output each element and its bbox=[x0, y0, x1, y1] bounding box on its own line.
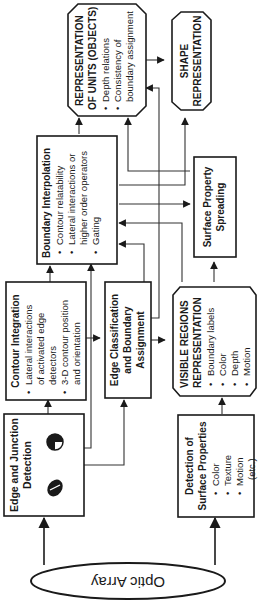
bullet-icon: • bbox=[54, 251, 65, 254]
spreading-title-2: Spreading bbox=[215, 183, 226, 232]
bullet-icon: • bbox=[229, 383, 240, 386]
bullet-icon: • bbox=[217, 383, 228, 386]
surface-bullet-3: Motion bbox=[234, 457, 245, 486]
units-title-1: REPRESENTATION bbox=[74, 15, 85, 106]
diagram-canvas: Optic Array Edge and Junction Detection … bbox=[0, 0, 269, 603]
visible-bullet-1: Boundary labels bbox=[205, 308, 216, 376]
junction-disk-icon bbox=[47, 434, 63, 450]
edge-classification-title-2: and Boundary bbox=[122, 306, 133, 374]
spreading-title-1: Surface Property bbox=[202, 166, 213, 247]
edge-junction-node: Edge and Junction Detection bbox=[4, 414, 84, 516]
boundary-bullet-2b: higher order operators bbox=[78, 151, 89, 245]
visible-title-2: REPRESENTATION bbox=[192, 297, 203, 388]
edge-junction-title-1: Edge and Junction bbox=[8, 418, 20, 512]
bullet-icon: • bbox=[23, 391, 34, 394]
surface-detection-title-1: Detection of bbox=[184, 436, 195, 494]
bullet-icon: • bbox=[100, 107, 111, 110]
units-bullet-1: Depth relations bbox=[100, 38, 111, 102]
arrow-edge-to-classification bbox=[84, 400, 124, 465]
edge-classification-node: Edge Classification and Boundary Assignm… bbox=[105, 282, 151, 398]
surface-bullet-3b: (etc.) bbox=[246, 458, 257, 480]
visible-regions-node: VISIBLE REGIONS REPRESENTATION • Boundar… bbox=[173, 287, 256, 396]
surface-bullet-2: Texture bbox=[222, 455, 233, 486]
contour-bullet-1: Lateral interactions bbox=[23, 304, 34, 385]
boundary-bullet-2: Lateral interactions or bbox=[66, 154, 77, 245]
surface-detection-title-2: Surface Properties bbox=[197, 421, 208, 510]
shape-title-1: SHAPE bbox=[179, 43, 190, 78]
arrow-visible-to-boundary bbox=[119, 223, 182, 282]
visible-bullet-3: Depth bbox=[229, 351, 240, 376]
visible-bullet-2: Color bbox=[217, 353, 228, 376]
bullet-icon: • bbox=[222, 492, 233, 495]
boundary-title: Boundary Interpolation bbox=[41, 148, 52, 258]
shape-representation-node: SHAPE REPRESENTATION bbox=[172, 12, 211, 110]
bullet-icon: • bbox=[112, 107, 123, 110]
boundary-bullet-3: Gating bbox=[90, 217, 101, 245]
units-bullet-2b: boundary assignment bbox=[124, 11, 135, 102]
surface-detection-node: Detection of Surface Properties • Color … bbox=[178, 415, 257, 517]
contour-integration-node: Contour Integration • Lateral interactio… bbox=[6, 282, 86, 400]
surface-spreading-node: Surface Property Spreading bbox=[194, 157, 236, 257]
surface-bullet-1: Color bbox=[210, 463, 221, 486]
edge-junction-title-2: Detection bbox=[21, 441, 33, 489]
edge-classification-title-3: Assignment bbox=[135, 311, 146, 369]
optic-array-node: Optic Array bbox=[31, 563, 225, 599]
boundary-interpolation-node: Boundary Interpolation • Contour relatab… bbox=[37, 136, 117, 264]
contour-bullet-1c: detectors bbox=[47, 346, 58, 385]
bullet-icon: • bbox=[241, 383, 252, 386]
bullet-icon: • bbox=[210, 492, 221, 495]
edge-classification-title-1: Edge Classification bbox=[109, 294, 120, 386]
bullet-icon: • bbox=[59, 391, 70, 394]
units-title-2: OF UNITS (OBJECTS) bbox=[87, 7, 98, 110]
bullet-icon: • bbox=[234, 492, 245, 495]
contour-title: Contour Integration bbox=[10, 294, 21, 387]
optic-array-label: Optic Array bbox=[90, 574, 165, 591]
contour-bullet-2b: and orientation bbox=[71, 322, 82, 385]
contour-bullet-1b: of activated edge bbox=[35, 313, 46, 385]
visible-title-1: VISIBLE REGIONS bbox=[179, 300, 190, 388]
boundary-bullet-1: Contour relatability bbox=[54, 166, 65, 245]
arrow-boundary-to-shape bbox=[119, 118, 185, 185]
arrow-classification-to-boundary bbox=[119, 244, 144, 282]
visible-bullet-4: Motion bbox=[241, 347, 252, 376]
bullet-icon: • bbox=[90, 251, 101, 254]
representation-units-node: REPRESENTATION OF UNITS (OBJECTS) • Dept… bbox=[68, 4, 146, 116]
shape-title-2: REPRESENTATION bbox=[192, 16, 203, 107]
contour-bullet-2: 3-D contour position bbox=[59, 300, 70, 385]
bullet-icon: • bbox=[66, 251, 77, 254]
bullet-icon: • bbox=[205, 383, 216, 386]
units-bullet-2: Consistency of bbox=[112, 39, 123, 102]
